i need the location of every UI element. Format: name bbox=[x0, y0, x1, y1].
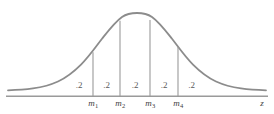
tick-label-m2-subscript: 2 bbox=[122, 102, 125, 109]
normal-curve bbox=[8, 13, 266, 90]
tick-label-m4: m4 bbox=[173, 98, 183, 108]
tick-label-m1-letter: m bbox=[88, 98, 95, 108]
area-label-region-5: .2 bbox=[188, 80, 195, 90]
area-label-region-2: .2 bbox=[103, 80, 110, 90]
normal-distribution-figure: .2 .2 .2 .2 .2 m1 m2 m3 m4 z bbox=[0, 0, 274, 114]
tick-label-m3: m3 bbox=[145, 98, 155, 108]
x-axis-label: z bbox=[260, 98, 264, 108]
tick-label-m4-letter: m bbox=[173, 98, 180, 108]
tick-label-m1-subscript: 1 bbox=[95, 102, 98, 109]
distribution-plot bbox=[0, 0, 274, 114]
tick-label-m2-letter: m bbox=[115, 98, 122, 108]
tick-label-m4-subscript: 4 bbox=[180, 102, 183, 109]
area-label-region-3: .2 bbox=[132, 80, 139, 90]
area-label-region-4: .2 bbox=[161, 80, 168, 90]
tick-label-m1: m1 bbox=[88, 98, 98, 108]
tick-label-m3-subscript: 3 bbox=[152, 102, 155, 109]
area-label-region-1: .2 bbox=[76, 80, 83, 90]
tick-label-m3-letter: m bbox=[145, 98, 152, 108]
tick-label-m2: m2 bbox=[115, 98, 125, 108]
